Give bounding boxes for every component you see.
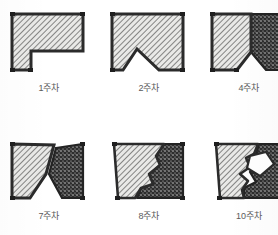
panel-week-2: 2주차 xyxy=(104,4,194,109)
corner-marker xyxy=(180,196,185,200)
panel-week-2-label: 2주차 xyxy=(104,82,194,94)
panel-week-10: 10주차 xyxy=(204,134,278,235)
corner-marker xyxy=(210,12,215,16)
corner-marker xyxy=(217,196,222,200)
corner-marker xyxy=(115,196,120,200)
panel-week-8-label: 8주차 xyxy=(104,210,194,222)
panel-week-10-art xyxy=(204,134,278,210)
corner-marker xyxy=(10,196,15,200)
stippled-region xyxy=(251,14,278,70)
stage-diagram-figure: 1주차 2주차 xyxy=(0,0,278,235)
stippled-region xyxy=(49,144,83,198)
corner-marker xyxy=(234,68,239,72)
corner-marker xyxy=(28,68,33,72)
panel-week-7-art xyxy=(4,134,94,210)
corner-marker xyxy=(110,12,115,16)
panel-week-4-label: 4주차 xyxy=(204,82,278,94)
corner-marker xyxy=(10,68,15,72)
corner-marker xyxy=(80,12,85,16)
corner-marker xyxy=(110,68,115,72)
corner-marker xyxy=(180,68,185,72)
hatched-region xyxy=(12,144,54,198)
corner-marker xyxy=(80,196,85,200)
corner-marker xyxy=(10,142,15,146)
panel-week-7: 7주차 xyxy=(4,134,94,235)
panel-week-2-art xyxy=(104,4,194,80)
panel-week-1-label: 1주차 xyxy=(4,82,94,94)
hatched-region xyxy=(12,14,83,70)
panel-week-4: 4주차 xyxy=(204,4,278,109)
panel-week-8: 8주차 xyxy=(104,134,194,235)
corner-marker xyxy=(80,142,85,146)
corner-marker xyxy=(10,12,15,16)
hatched-region xyxy=(212,14,251,70)
corner-marker xyxy=(112,142,117,146)
panel-week-7-label: 7주차 xyxy=(4,210,94,222)
corner-marker xyxy=(180,142,185,146)
panel-week-1: 1주차 xyxy=(4,4,94,109)
corner-marker xyxy=(210,68,215,72)
panel-week-4-art xyxy=(204,4,278,80)
hatched-region xyxy=(112,14,183,70)
panel-week-8-art xyxy=(104,134,194,210)
panel-week-1-art xyxy=(4,4,94,80)
corner-marker xyxy=(214,142,219,146)
corner-marker xyxy=(180,12,185,16)
panel-week-10-label: 10주차 xyxy=(204,210,278,222)
